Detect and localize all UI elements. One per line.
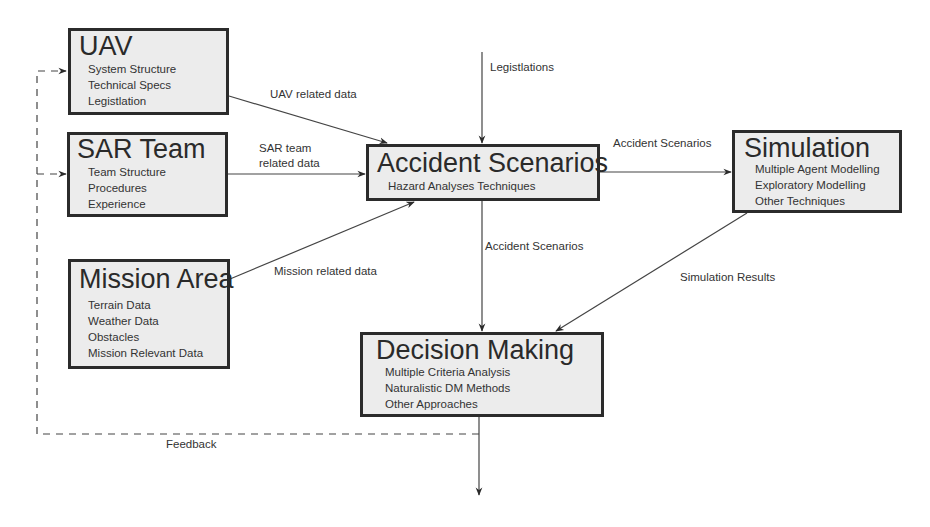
node-sar-team-title: SAR Team xyxy=(77,134,206,164)
node-sar-team-item: Experience xyxy=(88,196,166,212)
node-uav: UAV System Structure Technical Specs Leg… xyxy=(68,28,229,115)
label-feedback: Feedback xyxy=(166,437,217,451)
node-decision-making-title: Decision Making xyxy=(376,335,574,365)
node-simulation: Simulation Multiple Agent Modelling Expl… xyxy=(732,130,902,213)
node-simulation-item: Multiple Agent Modelling xyxy=(755,161,880,177)
label-mission-related-data: Mission related data xyxy=(274,264,377,278)
node-accident-scenarios-title: Accident Scenarios xyxy=(377,148,608,178)
label-simulation-results: Simulation Results xyxy=(680,270,775,284)
node-mission-area-items: Terrain Data Weather Data Obstacles Miss… xyxy=(88,297,203,361)
node-accident-scenarios-items: Hazard Analyses Techniques xyxy=(388,178,535,194)
node-sar-team-items: Team Structure Procedures Experience xyxy=(88,164,166,212)
label-accident-to-decision: Accident Scenarios xyxy=(485,239,583,253)
node-sar-team: SAR Team Team Structure Procedures Exper… xyxy=(67,132,228,217)
node-mission-area-item: Mission Relevant Data xyxy=(88,345,203,361)
node-decision-making: Decision Making Multiple Criteria Analys… xyxy=(360,332,604,417)
node-uav-item: Legistlation xyxy=(88,93,176,109)
node-simulation-title: Simulation xyxy=(744,133,870,163)
node-uav-items: System Structure Technical Specs Legistl… xyxy=(88,61,176,109)
label-legislations: Legistlations xyxy=(490,60,554,74)
node-mission-area-item: Terrain Data xyxy=(88,297,203,313)
label-accident-to-simulation: Accident Scenarios xyxy=(613,136,711,150)
node-decision-making-item: Other Approaches xyxy=(385,396,510,412)
node-simulation-item: Exploratory Modelling xyxy=(755,177,880,193)
node-decision-making-item: Naturalistic DM Methods xyxy=(385,380,510,396)
node-decision-making-items: Multiple Criteria Analysis Naturalistic … xyxy=(385,364,510,412)
node-uav-title: UAV xyxy=(79,31,133,61)
node-mission-area-item: Obstacles xyxy=(88,329,203,345)
node-decision-making-item: Multiple Criteria Analysis xyxy=(385,364,510,380)
node-accident-scenarios-item: Hazard Analyses Techniques xyxy=(388,178,535,194)
node-sar-team-item: Procedures xyxy=(88,180,166,196)
node-mission-area-title: Mission Area xyxy=(79,264,234,294)
node-uav-item: Technical Specs xyxy=(88,77,176,93)
arrow-uav-to-accident xyxy=(229,96,387,143)
label-sar-related-data-2: related data xyxy=(259,156,320,170)
label-uav-related-data: UAV related data xyxy=(270,87,357,101)
node-accident-scenarios: Accident Scenarios Hazard Analyses Techn… xyxy=(366,144,600,201)
node-mission-area-item: Weather Data xyxy=(88,313,203,329)
label-sar-related-data-1: SAR team xyxy=(259,141,311,155)
node-simulation-items: Multiple Agent Modelling Exploratory Mod… xyxy=(755,161,880,209)
node-uav-item: System Structure xyxy=(88,61,176,77)
node-simulation-item: Other Techniques xyxy=(755,193,880,209)
node-mission-area: Mission Area Terrain Data Weather Data O… xyxy=(68,259,230,369)
node-sar-team-item: Team Structure xyxy=(88,164,166,180)
